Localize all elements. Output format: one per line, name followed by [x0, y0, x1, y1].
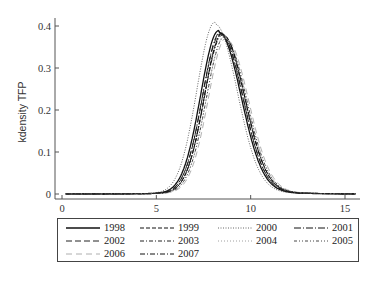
- legend-swatch-icon: [218, 224, 252, 232]
- density-curve-2005: [66, 37, 356, 194]
- legend-label: 1999: [178, 222, 199, 233]
- legend-item-2006: 2006: [66, 247, 125, 260]
- y-tick-label: 0.4: [38, 21, 52, 32]
- legend-swatch-icon: [66, 237, 100, 245]
- legend-swatch-icon: [140, 250, 174, 258]
- legend-swatch-icon: [294, 237, 328, 245]
- legend-swatch-icon: [66, 250, 100, 258]
- legend-swatch-icon: [294, 224, 328, 232]
- legend-item-2000: 2000: [218, 221, 277, 234]
- density-curve-2002: [66, 34, 356, 194]
- legend-label: 2005: [332, 235, 353, 246]
- legend-item-1999: 1999: [140, 221, 199, 234]
- legend-label: 2006: [104, 248, 125, 259]
- y-tick-label: 0.3: [38, 63, 51, 74]
- legend-item-1998: 1998: [66, 221, 125, 234]
- legend-label: 2007: [178, 248, 199, 259]
- legend-item-2001: 2001: [294, 221, 353, 234]
- x-tick-label: 15: [340, 203, 351, 214]
- legend-swatch-icon: [66, 224, 100, 232]
- legend-label: 2003: [178, 235, 199, 246]
- x-tick-label: 0: [59, 203, 64, 214]
- density-curve-2004: [66, 36, 356, 194]
- x-tick-label: 10: [245, 203, 256, 214]
- legend: 1998199920002001200220032004200520062007: [57, 218, 359, 262]
- legend-item-2002: 2002: [66, 234, 125, 247]
- legend-label: 2000: [256, 222, 277, 233]
- legend-label: 2004: [256, 235, 277, 246]
- legend-swatch-icon: [140, 237, 174, 245]
- density-curve-2006: [66, 38, 356, 194]
- legend-label: 2001: [332, 222, 353, 233]
- legend-item-2007: 2007: [140, 247, 199, 260]
- legend-swatch-icon: [218, 237, 252, 245]
- y-tick-label: 0: [46, 189, 51, 200]
- legend-item-2004: 2004: [218, 234, 277, 247]
- y-tick-label: 0.1: [38, 147, 51, 158]
- legend-label: 1998: [104, 222, 125, 233]
- density-curve-2003: [66, 35, 356, 194]
- legend-item-2005: 2005: [294, 234, 353, 247]
- y-tick-label: 0.2: [38, 105, 51, 116]
- x-tick-label: 5: [154, 203, 159, 214]
- y-axis-label: kdensity TFP: [16, 81, 28, 142]
- legend-swatch-icon: [140, 224, 174, 232]
- legend-label: 2002: [104, 235, 125, 246]
- density-curves: [66, 22, 356, 194]
- legend-item-2003: 2003: [140, 234, 199, 247]
